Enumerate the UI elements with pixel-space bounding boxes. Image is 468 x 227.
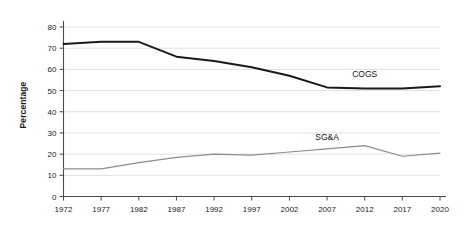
series-inline-labels: COGSSG&A — [315, 69, 377, 143]
series-line-sg-a — [64, 146, 441, 169]
y-axis — [60, 21, 64, 197]
x-tick-label: 1997 — [243, 205, 261, 214]
x-tick-label: 2020 — [431, 205, 449, 214]
y-tick-label: 30 — [48, 129, 57, 138]
series-label-sg-a: SG&A — [315, 132, 339, 142]
y-tick-label: 40 — [48, 108, 57, 117]
series-line-cogs — [64, 42, 441, 89]
x-tick-label: 2012 — [356, 205, 374, 214]
x-tick-label: 1992 — [205, 205, 223, 214]
x-tick-label: 1982 — [130, 205, 148, 214]
y-tick-label: 20 — [48, 150, 57, 159]
y-tick-label: 70 — [48, 44, 57, 53]
y-tick-labels: 01020304050607080 — [48, 23, 57, 202]
x-tick-label: 2007 — [318, 205, 336, 214]
y-tick-label: 50 — [48, 87, 57, 96]
x-tick-label: 2017 — [393, 205, 411, 214]
y-tick-label: 60 — [48, 65, 57, 74]
series-label-cogs: COGS — [352, 69, 377, 79]
y-tick-label: 80 — [48, 23, 57, 32]
y-tick-label: 10 — [48, 171, 57, 180]
x-axis — [64, 197, 447, 201]
y-tick-label: 0 — [52, 193, 57, 202]
x-tick-label: 1987 — [168, 205, 186, 214]
x-tick-label: 1972 — [55, 205, 73, 214]
x-tick-label: 1977 — [92, 205, 110, 214]
y-axis-title: Percentage — [18, 70, 28, 140]
gridlines — [64, 27, 441, 197]
chart-container: Percentage 01020304050607080 19721977198… — [0, 0, 468, 227]
x-tick-label: 2002 — [281, 205, 299, 214]
line-chart-plot: 01020304050607080 1972197719821987199219… — [0, 0, 468, 227]
series-lines — [64, 42, 441, 169]
x-tick-labels: 1972197719821987199219972002200720122017… — [55, 205, 450, 214]
